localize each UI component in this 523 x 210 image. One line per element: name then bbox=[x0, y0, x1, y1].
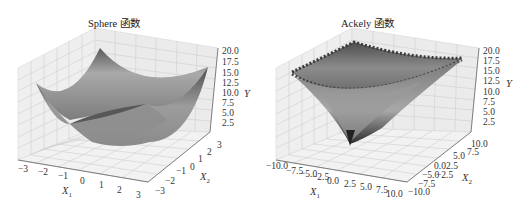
ackley-z-tick-12-5: 12.5 bbox=[483, 77, 500, 87]
sphere-y-tick: 3 bbox=[217, 141, 222, 151]
sphere-y-tick: −1 bbox=[176, 167, 186, 177]
sphere-x-tick: 0 bbox=[80, 177, 85, 187]
sphere-x-tick: 1 bbox=[99, 181, 104, 191]
ackley-x-axis-label: X1 bbox=[310, 186, 320, 200]
sphere-y-axis-label: X2 bbox=[200, 171, 210, 185]
sphere-x-tick: −2 bbox=[38, 168, 48, 178]
ackley-x-tick: 5.0 bbox=[360, 183, 372, 193]
sphere-x-tick: −3 bbox=[18, 165, 28, 175]
ackley-y-tick: 0.0 bbox=[434, 162, 446, 172]
ackley-x-tick: −10.0 bbox=[266, 162, 288, 172]
sphere-z-tick-2-5: 2.5 bbox=[222, 119, 234, 129]
ackley-x-tick: 0.0 bbox=[327, 177, 339, 187]
sphere-y-tick: 2 bbox=[207, 148, 212, 158]
ackley-y-tick: 2.5 bbox=[446, 162, 458, 172]
sphere-chart-panel: Sphere 函数 20.0 17.5 15.0 12.5 10.0 7.5 5… bbox=[0, 0, 262, 210]
ackley-chart-title: Ackely 函数 bbox=[341, 15, 394, 30]
sphere-y-tick: 1 bbox=[198, 155, 203, 165]
sphere-z-tick-20: 20.0 bbox=[222, 47, 239, 57]
ackley-x-tick: 10.0 bbox=[386, 190, 403, 200]
sphere-x-tick: −1 bbox=[58, 172, 68, 182]
ackley-y-tick: 10.0 bbox=[471, 140, 488, 150]
ackley-y-axis-label: X2 bbox=[462, 172, 472, 186]
sphere-x-tick: 2 bbox=[117, 186, 122, 196]
ackley-y-tick: −7.5 bbox=[418, 180, 435, 190]
sphere-y-tick: −2 bbox=[165, 177, 175, 187]
ackley-z-axis-label: Y bbox=[506, 78, 512, 89]
ackley-x-tick: 2.5 bbox=[344, 180, 356, 190]
sphere-y-tick: 0 bbox=[190, 163, 195, 173]
ackley-y-tick: 5.0 bbox=[453, 152, 465, 162]
ackley-z-tick-2-5: 2.5 bbox=[483, 118, 495, 128]
sphere-x-axis-label: X1 bbox=[62, 185, 72, 199]
sphere-z-tick-17-5: 17.5 bbox=[222, 58, 239, 68]
ackley-y-tick: −2.5 bbox=[436, 171, 453, 181]
sphere-z-axis-label: Y bbox=[244, 88, 250, 99]
sphere-y-tick: −3 bbox=[155, 187, 165, 197]
sphere-chart-title: Sphere 函数 bbox=[88, 15, 140, 30]
sphere-x-tick: 3 bbox=[136, 191, 141, 201]
ackley-chart-panel: Ackely 函数 20.0 17.5 15.0 12.5 10.0 7.5 5… bbox=[262, 0, 523, 210]
